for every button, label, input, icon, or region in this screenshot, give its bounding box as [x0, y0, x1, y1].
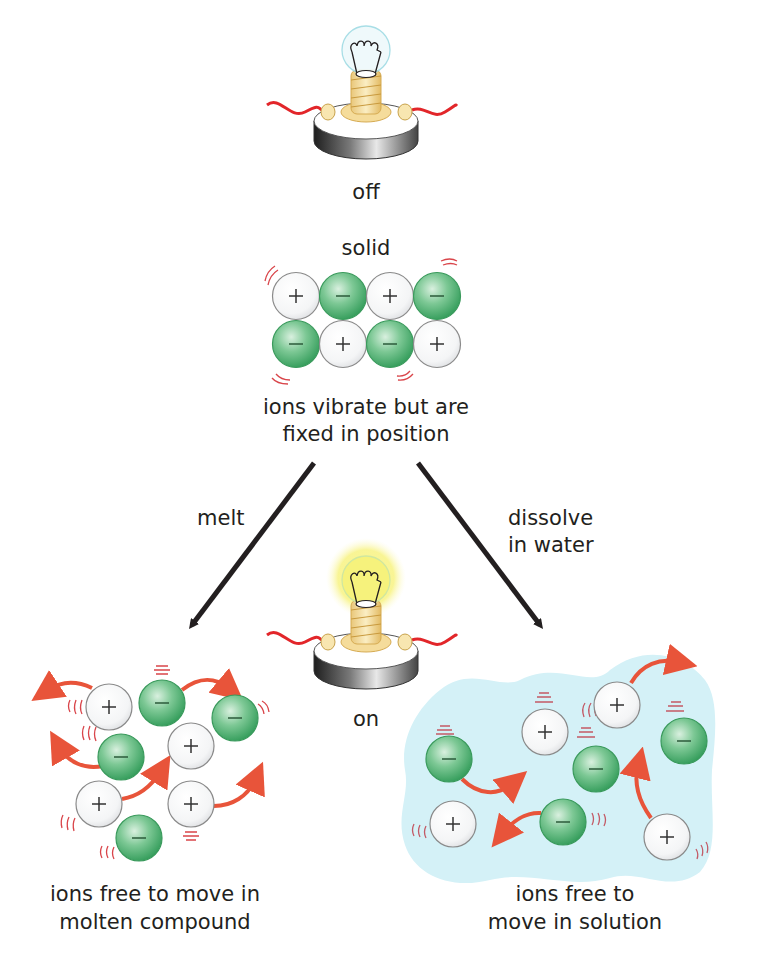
- dissolve-label-line2: in water: [508, 531, 594, 559]
- cation-icon: [273, 273, 320, 320]
- anion-icon: [573, 746, 619, 792]
- solid-title: solid: [316, 234, 416, 262]
- anion-icon: [661, 718, 707, 764]
- melt-arrow: [192, 463, 314, 625]
- solid-lattice: [273, 273, 461, 368]
- ionic-conduction-diagram: [0, 0, 764, 953]
- wire-left: [267, 103, 322, 114]
- anion-icon: [139, 680, 185, 726]
- molten-caption-line1: ions free to move in: [10, 880, 300, 908]
- cation-icon: [430, 801, 476, 847]
- solution-caption-line1: ions free to: [430, 880, 720, 908]
- cation-icon: [168, 781, 214, 827]
- cation-icon: [644, 814, 690, 860]
- solution-caption-line2: move in solution: [430, 908, 720, 936]
- anion-icon: [98, 734, 144, 780]
- solid-caption-line1: ions vibrate but are: [216, 393, 516, 421]
- bulb-off-icon: [267, 26, 457, 159]
- molten-caption-line2: molten compound: [10, 908, 300, 936]
- anion-icon: [367, 321, 414, 368]
- anion-icon: [426, 736, 472, 782]
- cation-icon: [414, 321, 461, 368]
- anion-icon: [414, 273, 461, 320]
- cation-icon: [76, 781, 122, 827]
- cation-icon: [594, 682, 640, 728]
- cation-icon: [168, 723, 214, 769]
- solid-caption-line2: fixed in position: [216, 420, 516, 448]
- anion-icon: [540, 799, 586, 845]
- wire-right: [412, 105, 457, 115]
- wire-right: [412, 635, 457, 645]
- cation-icon: [320, 321, 367, 368]
- bulb-on-label: on: [316, 705, 416, 733]
- anion-icon: [273, 321, 320, 368]
- cation-icon: [522, 709, 568, 755]
- cation-icon: [367, 273, 414, 320]
- melt-label: melt: [197, 504, 244, 532]
- anion-icon: [212, 695, 258, 741]
- molten-ions: [76, 680, 258, 861]
- cation-icon: [86, 684, 132, 730]
- wire-left: [267, 633, 322, 644]
- bulb-off-label: off: [316, 178, 416, 206]
- anion-icon: [116, 815, 162, 861]
- dissolve-label-line1: dissolve: [508, 504, 593, 532]
- anion-icon: [320, 273, 367, 320]
- bulb-on-icon: [267, 538, 457, 689]
